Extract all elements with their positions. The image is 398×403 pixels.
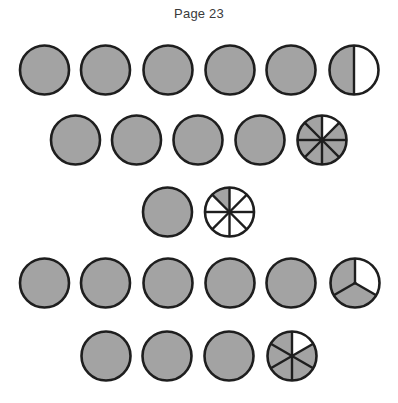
- whole-circle: [143, 188, 192, 237]
- whole-circle: [143, 332, 192, 381]
- whole-circle: [206, 259, 255, 308]
- shaded-slice: [330, 46, 354, 95]
- unshaded-slice: [354, 46, 378, 95]
- fraction-row-3: [143, 188, 254, 237]
- whole-circle: [82, 332, 131, 381]
- partial-circle: [331, 259, 380, 308]
- fraction-row-2: [51, 116, 347, 165]
- partial-circle: [267, 332, 316, 381]
- whole-circle: [51, 116, 100, 165]
- whole-circle: [144, 259, 193, 308]
- whole-circle: [267, 259, 316, 308]
- whole-circle: [236, 116, 285, 165]
- partial-circle: [298, 116, 347, 165]
- partial-circle: [205, 188, 254, 237]
- whole-circle: [81, 259, 130, 308]
- whole-circle: [112, 116, 161, 165]
- whole-circle: [20, 46, 69, 95]
- fraction-row-5: [82, 332, 317, 381]
- whole-circle: [81, 46, 130, 95]
- fraction-row-1: [20, 46, 379, 95]
- partial-circle: [330, 46, 379, 95]
- whole-circle: [20, 259, 69, 308]
- fraction-circles-figure: [0, 0, 398, 403]
- whole-circle: [206, 46, 255, 95]
- whole-circle: [144, 46, 193, 95]
- whole-circle: [205, 332, 254, 381]
- whole-circle: [267, 46, 316, 95]
- whole-circle: [174, 116, 223, 165]
- fraction-row-4: [20, 259, 380, 308]
